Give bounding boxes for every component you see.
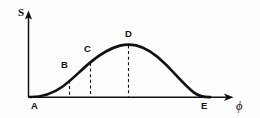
x-axis-label: ϕ <box>236 100 242 113</box>
point-label-a: A <box>31 101 38 111</box>
y-axis-label: S <box>18 7 24 18</box>
plot-svg <box>0 0 260 118</box>
point-label-e: E <box>201 101 208 111</box>
bell-curve <box>30 45 210 97</box>
point-label-d: D <box>125 29 132 39</box>
point-label-b: B <box>61 60 68 70</box>
figure-container: S ϕ A B C D E <box>0 0 260 118</box>
point-label-c: C <box>84 44 91 54</box>
